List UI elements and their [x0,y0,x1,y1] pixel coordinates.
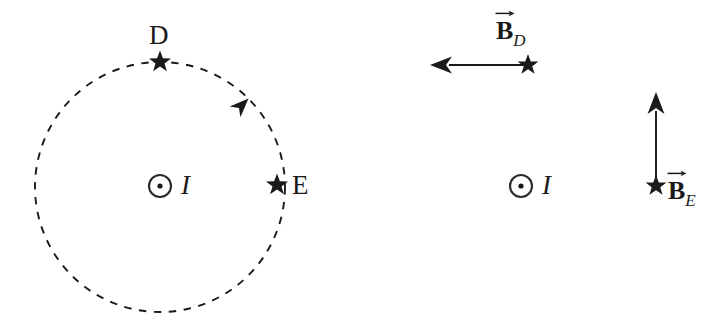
current-out-of-page-symbol-right [510,175,532,197]
vector-be-base: B [668,178,685,204]
point-marker-d [149,51,171,72]
vector-bd-base: B [496,18,513,44]
label-vector-be: B E [668,178,696,204]
label-vector-bd: B D [496,18,526,44]
current-out-of-page-symbol-left [149,175,171,197]
vector-arrow-overbar-icon [667,168,687,177]
vector-arrow-bd [430,57,528,74]
physics-figure: D E I I B D B E [0,0,719,325]
left-panel-group [35,51,288,313]
diagram-canvas [0,0,719,325]
label-current-right: I [542,172,551,199]
vector-bd-subscript: D [513,32,525,49]
point-marker-bd-origin [518,54,539,74]
label-point-d: D [149,22,169,49]
vector-be-stack: B [668,178,685,204]
vector-be-subscript: E [685,192,695,209]
label-current-left: I [181,172,190,199]
point-marker-be-origin [646,175,667,195]
vector-arrow-overbar-icon [495,8,515,17]
vector-arrow-be [648,92,665,186]
field-direction-arrowhead [230,93,254,117]
vector-bd-stack: B [496,18,513,44]
label-point-e: E [292,172,309,199]
